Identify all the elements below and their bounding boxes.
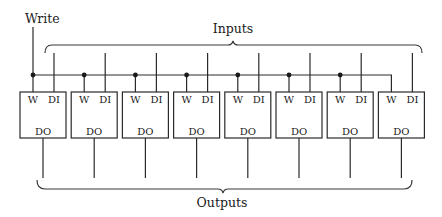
register-diagram: Write Inputs Outputs WDIDOWDIDOWDIDOWDID…	[0, 0, 442, 217]
write-bus	[33, 75, 391, 92]
pin-do-label: DO	[86, 126, 102, 137]
junction-dot	[184, 73, 189, 78]
pin-w-label: W	[130, 94, 141, 105]
pin-do-label: DO	[35, 126, 51, 137]
pin-w-label: W	[284, 94, 295, 105]
junction-dot	[338, 73, 343, 78]
pin-w-label: W	[28, 94, 39, 105]
pin-do-label: DO	[188, 126, 204, 137]
pin-do-label: DO	[240, 126, 256, 137]
pin-do-label: DO	[291, 126, 307, 137]
pin-di-label: DI	[406, 94, 418, 105]
pin-di-label: DI	[202, 94, 214, 105]
pin-do-label: DO	[393, 126, 409, 137]
outputs-label: Outputs	[197, 195, 248, 210]
inputs-label: Inputs	[213, 21, 253, 36]
pin-w-label: W	[335, 94, 346, 105]
junction-dot	[31, 73, 36, 78]
junction-dot	[235, 73, 240, 78]
pin-do-label: DO	[137, 126, 153, 137]
pin-di-label: DI	[304, 94, 316, 105]
pin-di-label: DI	[48, 94, 60, 105]
pin-di-label: DI	[355, 94, 367, 105]
pin-w-label: W	[79, 94, 90, 105]
pin-w-label: W	[233, 94, 244, 105]
pin-di-label: DI	[253, 94, 265, 105]
inputs-brace	[45, 41, 422, 53]
junction-dot	[287, 73, 292, 78]
pin-di-label: DI	[99, 94, 111, 105]
pin-di-label: DI	[150, 94, 162, 105]
pin-w-label: W	[181, 94, 192, 105]
junction-dot	[82, 73, 87, 78]
pin-w-label: W	[386, 94, 397, 105]
pin-do-label: DO	[342, 126, 358, 137]
junction-dot	[133, 73, 138, 78]
outputs-brace	[37, 180, 412, 193]
write-label: Write	[25, 11, 60, 26]
